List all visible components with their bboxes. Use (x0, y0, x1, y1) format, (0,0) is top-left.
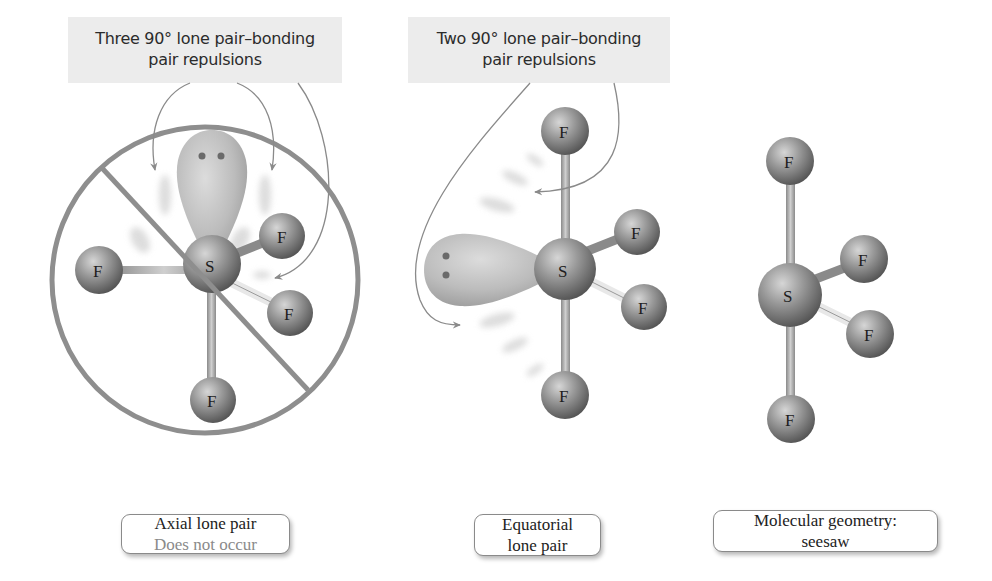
label-axial-lone-pair: Axial lone pair Does not occur (121, 514, 290, 554)
molecular-diagram: F S F F F F (0, 0, 992, 581)
label-axial-line2: Does not occur (122, 534, 289, 555)
molecule-axial: F S F F F (52, 83, 358, 433)
label-equatorial-lone-pair: Equatorial lone pair (474, 514, 601, 556)
atom-label-f: F (631, 224, 640, 243)
atom-label-s: S (783, 287, 792, 306)
atom-label-f: F (559, 387, 568, 406)
atom-label-s: S (558, 262, 567, 281)
atom-label-f: F (559, 123, 568, 142)
label-equatorial-line2: lone pair (475, 535, 600, 556)
label-axial-line1: Axial lone pair (122, 513, 289, 534)
label-equatorial-line1: Equatorial (475, 514, 600, 535)
atom-label-s: S (205, 257, 214, 276)
label-seesaw-line2: seesaw (714, 531, 937, 552)
atom-label-f: F (858, 251, 867, 270)
molecule-equatorial: F S F F F (415, 83, 667, 419)
lone-pair-dot (199, 153, 206, 160)
lone-pair-dot (443, 253, 450, 260)
atom-label-f: F (864, 326, 873, 345)
atom-label-f: F (638, 299, 647, 318)
lone-pair-dot (443, 272, 450, 279)
label-seesaw-geometry: Molecular geometry: seesaw (713, 510, 938, 552)
molecule-seesaw: F S F F F (758, 137, 894, 443)
atom-label-f: F (207, 392, 216, 411)
atom-label-f: F (277, 228, 286, 247)
atom-label-f: F (284, 305, 293, 324)
lone-pair-dot (218, 153, 225, 160)
atom-label-f: F (784, 153, 793, 172)
atom-label-f: F (785, 411, 794, 430)
label-seesaw-line1: Molecular geometry: (714, 510, 937, 531)
atom-label-f: F (93, 262, 102, 281)
